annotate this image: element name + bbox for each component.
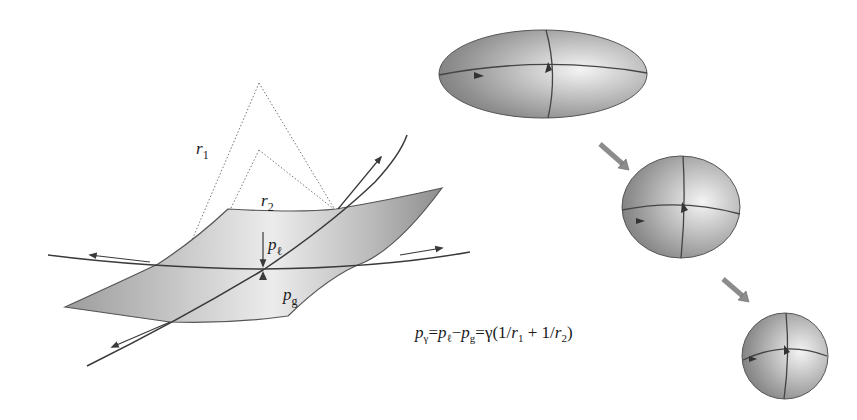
- surface-element-panel: r1 r2 pℓ pg: [48, 83, 470, 366]
- laplace-equation: pγ=pℓ−pg=γ(1/r1 + 1/r2): [414, 323, 573, 344]
- tension-arrow-right: [400, 248, 442, 255]
- tension-arrow-down-left: [112, 322, 170, 347]
- droplet-relaxation-panel: [439, 30, 828, 399]
- laplace-pressure-figure: r1 r2 pℓ pg pγ=pℓ−pg=γ(1/r1 + 1/r2): [0, 0, 857, 420]
- transition-arrow-2: [723, 279, 745, 298]
- droplet-stage-intermediate: [622, 156, 740, 258]
- transition-arrow-1: [600, 144, 625, 166]
- droplet-stage-sphere: [742, 313, 828, 399]
- droplet-stage-elongated: [439, 30, 647, 118]
- label-r1: r1: [196, 139, 209, 162]
- curved-surface-patch: [65, 188, 442, 322]
